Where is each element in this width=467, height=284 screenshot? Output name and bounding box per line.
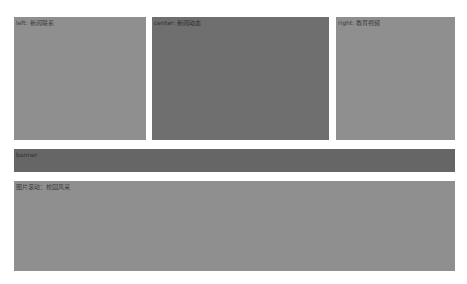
right-panel-label: right: 教育视频 <box>338 19 380 26</box>
banner-panel-label: banner <box>16 151 37 158</box>
banner-panel: banner <box>14 149 455 172</box>
image-scroll-panel: 图片滚动：校园风采 <box>14 181 455 271</box>
left-panel: left: 新闻联系 <box>14 17 146 140</box>
center-panel-label: center: 新闻动态 <box>154 19 201 26</box>
left-panel-label: left: 新闻联系 <box>16 19 54 26</box>
right-panel: right: 教育视频 <box>336 17 455 140</box>
center-panel: center: 新闻动态 <box>152 17 329 140</box>
image-scroll-panel-label: 图片滚动：校园风采 <box>16 183 70 190</box>
